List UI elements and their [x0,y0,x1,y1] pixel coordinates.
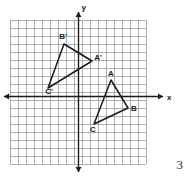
triangle-a-prime-b-prime-c-prime [48,44,92,88]
vertex-label-c-prime: C' [45,87,53,96]
vertex-label-b: B [131,104,137,113]
y-axis-label: y [82,3,87,12]
triangle-abc [94,80,128,124]
figure-canvas: xyABCB'A'C' [0,0,191,179]
vertex-label-a-prime: A' [94,53,102,62]
vertex-label-c: C [90,125,96,134]
x-axis-arrow-left-icon [4,94,9,100]
page-number: 3 [177,157,184,173]
coordinate-grid-figure: xyABCB'A'C' [0,0,191,179]
vertex-label-a: A [108,69,114,78]
y-axis-arrow-bottom-icon [76,167,82,172]
y-axis-arrow-top-icon [76,12,82,17]
vertex-label-b-prime: B' [59,32,67,41]
x-axis-arrow-right-icon [158,94,163,100]
x-axis-label: x [167,93,172,102]
